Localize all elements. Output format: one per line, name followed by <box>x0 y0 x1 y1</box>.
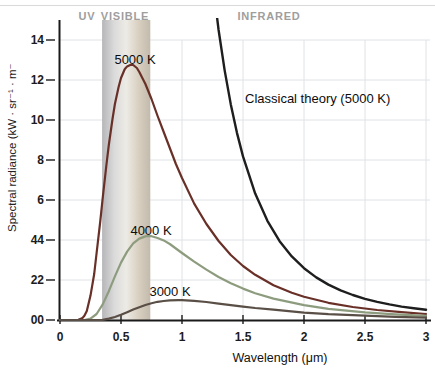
visible-region-label: VISIBLE <box>101 10 149 22</box>
chart-canvas: 0022446810121400.511.522.53 <box>0 0 435 377</box>
y-tick-label: 14 <box>31 33 45 47</box>
curve-label-4000k: 4000 K <box>130 224 171 237</box>
x-tick-label: 2 <box>301 330 308 344</box>
x-tick-label: 1 <box>179 330 186 344</box>
y-tick-label: 10 <box>31 113 45 127</box>
x-tick-label: 1.5 <box>235 330 252 344</box>
x-tick-label: 0.5 <box>113 330 130 344</box>
blackbody-radiation-figure: 0022446810121400.511.522.53 UV VISIBLE I… <box>0 0 435 377</box>
x-tick-label: 0 <box>57 330 64 344</box>
curve-label-classical-theory: Classical theory (5000 K) <box>245 92 390 105</box>
curve-label-5000k: 5000 K <box>114 53 155 66</box>
y-tick-label: 8 <box>37 153 44 167</box>
y-tick-label: 00 <box>31 313 45 327</box>
y-tick-label: 44 <box>31 233 45 247</box>
x-axis-title: Wavelength (μm) <box>233 351 328 365</box>
y-tick-label: 12 <box>31 73 45 87</box>
infrared-region-label: INFRARED <box>237 10 300 22</box>
x-tick-label: 2.5 <box>357 330 374 344</box>
y-tick-label: 22 <box>31 273 45 287</box>
x-tick-label: 3 <box>423 330 430 344</box>
curve-label-3000k: 3000 K <box>149 285 190 298</box>
y-axis-title: Spectral radiance (kW · sr⁻¹ · m⁻ <box>5 63 19 232</box>
uv-region-label: UV <box>79 10 96 22</box>
y-tick-label: 6 <box>37 193 44 207</box>
